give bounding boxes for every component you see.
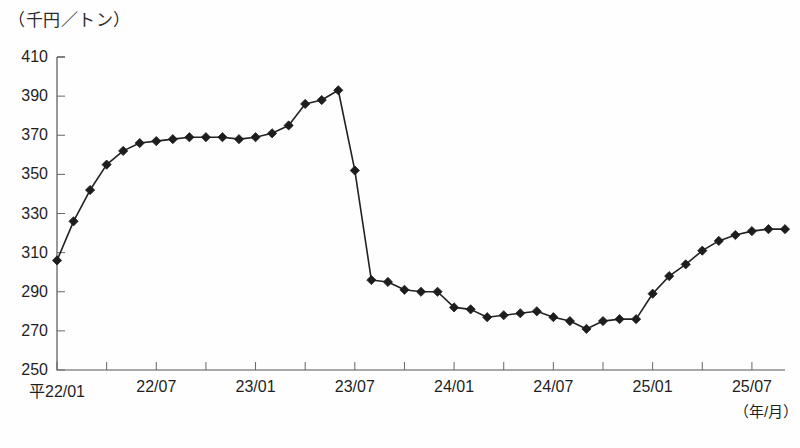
data-point-marker (168, 135, 177, 144)
data-point-marker (516, 309, 525, 318)
y-tick-label: 370 (8, 126, 48, 144)
plot-area (0, 0, 800, 448)
data-point-marker (466, 305, 475, 314)
data-point-marker (747, 227, 756, 236)
data-point-marker (615, 315, 624, 324)
data-point-marker (400, 285, 409, 294)
y-tick-label: 350 (8, 165, 48, 183)
x-tick-label: 24/01 (434, 378, 474, 396)
data-point-marker (549, 313, 558, 322)
data-point-marker (714, 236, 723, 245)
data-point-marker (185, 133, 194, 142)
data-point-marker (234, 135, 243, 144)
data-point-marker (532, 307, 541, 316)
y-tick-label: 390 (8, 87, 48, 105)
data-point-marker (499, 311, 508, 320)
data-point-marker (582, 324, 591, 333)
data-point-marker (383, 277, 392, 286)
x-tick-label: 平22/01 (29, 378, 85, 402)
data-point-marker (483, 313, 492, 322)
data-point-marker (201, 133, 210, 142)
data-point-marker (631, 315, 640, 324)
line-chart: （千円／トン） 410390370350330310290270250 平22/… (0, 0, 800, 448)
data-point-marker (317, 95, 326, 104)
x-tick-label: 23/07 (335, 378, 375, 396)
data-point-marker (350, 166, 359, 175)
x-tick-label: 24/07 (533, 378, 573, 396)
axis-frame (57, 57, 785, 370)
data-point-marker (598, 316, 607, 325)
y-tick-label: 310 (8, 244, 48, 262)
data-point-marker (416, 287, 425, 296)
data-point-marker (565, 316, 574, 325)
data-point-marker (218, 133, 227, 142)
data-point-marker (764, 225, 773, 234)
data-point-marker (334, 86, 343, 95)
data-point-marker (52, 256, 61, 265)
x-axis-ticks (57, 362, 752, 370)
x-tick-label: 22/07 (136, 378, 176, 396)
x-tick-label: 23/01 (236, 378, 276, 396)
y-axis-ticks (57, 57, 65, 370)
x-tick-label: 25/07 (732, 378, 772, 396)
data-point-marker (267, 129, 276, 138)
data-point-marker (251, 133, 260, 142)
data-point-marker (135, 138, 144, 147)
y-tick-label: 250 (8, 361, 48, 379)
y-tick-label: 330 (8, 205, 48, 223)
data-point-marker (780, 225, 789, 234)
data-point-marker (731, 230, 740, 239)
y-tick-label: 270 (8, 322, 48, 340)
x-tick-label: 25/01 (633, 378, 673, 396)
y-tick-label: 410 (8, 48, 48, 66)
data-point-marker (152, 137, 161, 146)
data-point-marker (85, 185, 94, 194)
data-point-marker (69, 217, 78, 226)
data-markers (52, 86, 789, 334)
x-axis-unit-label: （年/月） (734, 400, 798, 421)
data-point-marker (367, 275, 376, 284)
y-tick-label: 290 (8, 283, 48, 301)
